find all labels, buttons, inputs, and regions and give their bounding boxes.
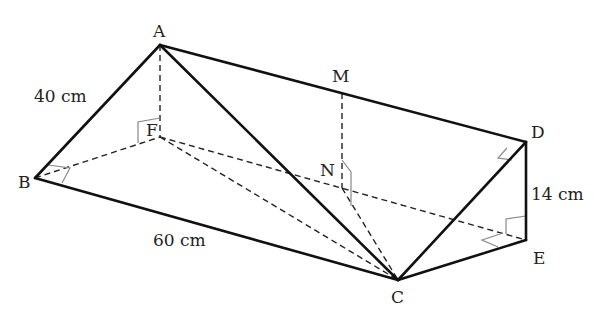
vertex-label-E: E	[533, 248, 545, 268]
edge-BC	[35, 178, 398, 280]
right-angle-marker-E2	[482, 233, 503, 247]
right-angle-marker-N	[342, 160, 351, 206]
vertex-label-M: M	[332, 66, 349, 86]
vertex-label-A: A	[152, 21, 166, 41]
prism-diagram: A B C D E F M N 40 cm 60 cm 14 cm	[0, 0, 601, 321]
vertex-label-N: N	[320, 160, 335, 180]
vertex-label-B: B	[18, 172, 31, 192]
measurement-BC: 60 cm	[153, 230, 206, 250]
vertex-label-F: F	[146, 120, 158, 140]
right-angle-marker-B	[48, 165, 70, 183]
edge-FC	[160, 137, 398, 280]
vertex-label-C: C	[391, 287, 404, 307]
edge-AD	[160, 45, 526, 142]
vertex-label-D: D	[531, 122, 545, 142]
measurement-AB: 40 cm	[34, 86, 87, 106]
measurement-DE: 14 cm	[531, 184, 584, 204]
right-angle-marker-E1	[506, 216, 526, 234]
